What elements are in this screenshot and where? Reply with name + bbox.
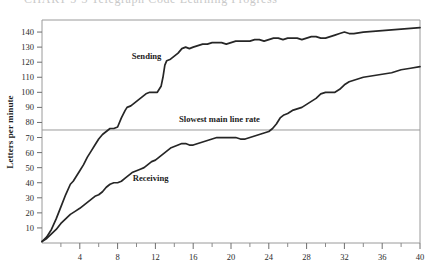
series-line-sending <box>42 28 420 242</box>
y-axis-tick-labels: 102030405060708090100110120130140 <box>21 27 34 233</box>
plot-annotations: SendingReceivingSlowest main line rate <box>132 51 260 183</box>
series-line-receiving <box>42 67 420 242</box>
x-axis-ticks <box>61 243 420 249</box>
cut-off-header-text: CHART 5-3 Telegraph Code Learning Progre… <box>0 0 434 9</box>
y-tick-label: 50 <box>26 163 35 173</box>
receiving-label: Receiving <box>133 173 170 183</box>
y-tick-label: 30 <box>26 193 35 203</box>
y-tick-label: 90 <box>26 102 35 112</box>
y-axis-ticks <box>37 32 42 228</box>
x-tick-label: 36 <box>378 252 387 262</box>
y-tick-label: 70 <box>26 133 35 143</box>
x-tick-label: 16 <box>189 252 198 262</box>
y-tick-label: 100 <box>21 87 34 97</box>
x-axis-tick-labels: 481216202428323640 <box>78 252 425 262</box>
data-series-layer <box>42 28 420 242</box>
x-tick-label: 4 <box>78 252 83 262</box>
line-chart-svg: 102030405060708090100110120130140 481216… <box>0 0 434 268</box>
chart-frame <box>42 20 420 243</box>
y-tick-label: 120 <box>21 57 34 67</box>
chart-figure: CHART 5-3 Telegraph Code Learning Progre… <box>0 0 434 268</box>
cut-off-header-label: CHART 5-3 Telegraph Code Learning Progre… <box>24 0 278 7</box>
reference-line-label: Slowest main line rate <box>179 114 260 124</box>
y-tick-label: 130 <box>21 42 34 52</box>
x-tick-label: 12 <box>151 252 160 262</box>
y-tick-label: 10 <box>26 223 35 233</box>
y-tick-label: 40 <box>26 178 35 188</box>
y-tick-label: 60 <box>26 148 35 158</box>
y-tick-label: 110 <box>22 72 34 82</box>
y-axis-title-group: Letters per minute <box>5 95 15 168</box>
x-tick-label: 40 <box>416 252 425 262</box>
x-tick-label: 28 <box>302 252 311 262</box>
x-tick-label: 24 <box>265 252 274 262</box>
y-axis-title: Letters per minute <box>5 95 15 168</box>
y-tick-label: 140 <box>21 27 34 37</box>
x-tick-label: 32 <box>340 252 349 262</box>
sending-label: Sending <box>132 51 162 61</box>
y-tick-label: 20 <box>26 208 35 218</box>
plot-frame <box>42 20 420 243</box>
x-tick-label: 20 <box>227 252 236 262</box>
x-tick-label: 8 <box>115 252 119 262</box>
y-tick-label: 80 <box>26 117 35 127</box>
